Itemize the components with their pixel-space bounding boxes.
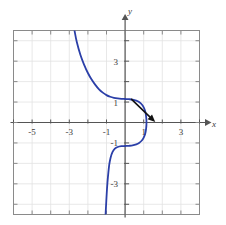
x-tick-label: 3: [179, 127, 184, 137]
x-tick-label: -1: [103, 127, 111, 137]
y-tick-label: 3: [114, 57, 119, 67]
x-tick-label: -3: [66, 127, 74, 137]
x-tick-label: -5: [28, 127, 36, 137]
plot-background: [0, 0, 226, 225]
cartesian-plot: -5-3-11331-1-3 x y: [0, 0, 226, 225]
y-axis-label: y: [127, 6, 132, 16]
graph-figure: -5-3-11331-1-3 x y: [0, 0, 226, 225]
x-axis-label: x: [211, 119, 216, 129]
y-tick-label: -3: [111, 179, 119, 189]
